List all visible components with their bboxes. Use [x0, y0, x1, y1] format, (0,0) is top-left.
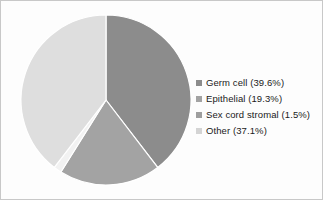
square-marker-icon	[196, 112, 202, 118]
square-marker-icon	[196, 80, 202, 86]
legend-item-other[interactable]: Other (37.1%)	[196, 123, 323, 139]
chart-legend: Germ cell (39.6%) Epithelial (19.3%) Sex…	[196, 75, 323, 139]
legend-item-sex-cord-stromal[interactable]: Sex cord stromal (1.5%)	[196, 107, 323, 123]
legend-item-label: Other (37.1%)	[206, 123, 267, 139]
legend-item-label: Epithelial (19.3%)	[206, 91, 282, 107]
square-marker-icon	[196, 128, 202, 134]
square-marker-icon	[196, 96, 202, 102]
pie-slice-group	[21, 15, 191, 185]
pie-chart-figure: Germ cell (39.6%) Epithelial (19.3%) Sex…	[0, 0, 323, 200]
legend-item-label: Sex cord stromal (1.5%)	[206, 107, 310, 123]
legend-item-label: Germ cell (39.6%)	[206, 75, 284, 91]
legend-item-epithelial[interactable]: Epithelial (19.3%)	[196, 91, 323, 107]
pie-svg	[1, 1, 201, 200]
legend-item-germ-cell[interactable]: Germ cell (39.6%)	[196, 75, 323, 91]
pie-plot-area	[1, 1, 201, 200]
